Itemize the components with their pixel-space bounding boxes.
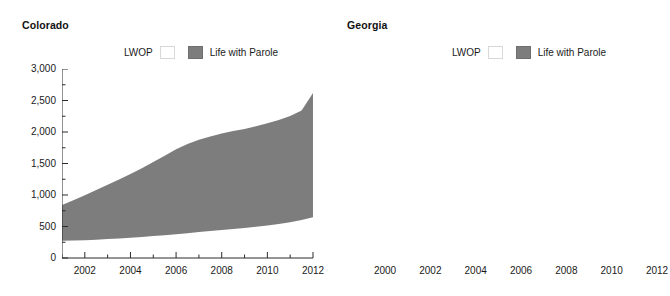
x-axis-tick-label: 2008 [555, 266, 577, 276]
x-axis-tick-label: 2010 [601, 266, 623, 276]
page-title-georgia: Georgia [347, 19, 387, 31]
x-axis-tick-label: 2006 [165, 266, 187, 276]
legend-swatch-life-with-parole-icon [516, 46, 531, 59]
legend-item-life-with-parole: Life with Parole [188, 46, 278, 59]
legend-label-lwop: LWOP [124, 47, 153, 58]
x-axis-labels-georgia: 2000200220042006200820102012 [335, 266, 670, 282]
x-axis-tick-label: 2012 [302, 266, 324, 276]
page-title-colorado: Colorado [22, 19, 69, 31]
chart-panel-colorado: Colorado LWOP Life with Parole 05001,000… [0, 0, 335, 296]
legend-item-life-with-parole: Life with Parole [516, 46, 606, 59]
y-axis-tick-label: 500 [39, 222, 56, 232]
x-axis-labels-colorado: 200220042006200820102012 [0, 266, 335, 282]
legend-label-lwop: LWOP [452, 47, 481, 58]
legend-swatch-life-with-parole-icon [188, 46, 203, 59]
legend-item-lwop: LWOP [452, 46, 503, 59]
legend-georgia: LWOP Life with Parole [452, 46, 606, 59]
x-axis-tick-label: 2010 [256, 266, 278, 276]
y-axis-tick-label: 2,500 [31, 96, 56, 106]
legend-swatch-lwop-icon [488, 46, 503, 59]
legend-label-life-with-parole: Life with Parole [538, 47, 606, 58]
y-axis-tick-label: 2,000 [31, 127, 56, 137]
x-axis-tick-label: 2002 [419, 266, 441, 276]
plot-area-colorado [62, 69, 313, 258]
x-axis-tick-label: 2008 [211, 266, 233, 276]
legend-item-lwop: LWOP [124, 46, 175, 59]
legend-swatch-lwop-icon [160, 46, 175, 59]
x-axis-tick-label: 2004 [119, 266, 141, 276]
figure-canvas: Colorado LWOP Life with Parole 05001,000… [0, 0, 670, 296]
y-axis-tick-label: 3,000 [31, 64, 56, 74]
x-axis-tick-label: 2006 [510, 266, 532, 276]
legend-label-life-with-parole: Life with Parole [210, 47, 278, 58]
y-axis-tick-label: 0 [50, 253, 56, 263]
x-axis-tick-label: 2002 [74, 266, 96, 276]
legend-colorado: LWOP Life with Parole [124, 46, 278, 59]
x-axis-tick-label: 2012 [646, 266, 668, 276]
x-axis-tick-label: 2000 [374, 266, 396, 276]
chart-panel-georgia: Georgia LWOP Life with Parole 02,0004,00… [335, 0, 670, 296]
x-axis-tick-label: 2004 [465, 266, 487, 276]
y-axis-tick-label: 1,500 [31, 159, 56, 169]
y-axis-tick-label: 1,000 [31, 190, 56, 200]
